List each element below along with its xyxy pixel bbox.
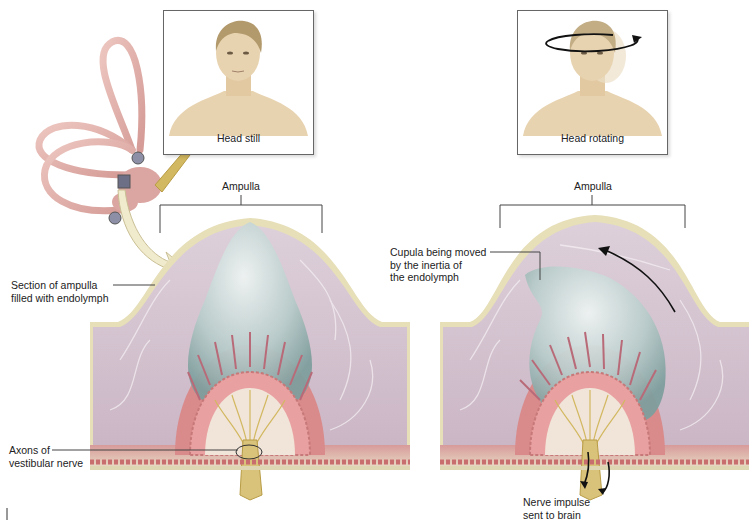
label-nerve-impulse: Nerve impulse sent to brain (523, 496, 590, 520)
left-ampulla-section (90, 218, 410, 500)
portrait-head-rotating: Head rotating (517, 10, 668, 155)
label-ampulla-left: Ampulla (222, 180, 260, 193)
label-section-of-ampulla: Section of ampulla filled with endolymph (11, 279, 108, 304)
caption-head-still: Head still (164, 132, 313, 144)
label-axons-vestibular-nerve: Axons of vestibular nerve (9, 444, 83, 469)
right-ampulla-section (440, 215, 749, 500)
portrait-head-still: Head still (163, 10, 314, 155)
caption-head-rotating: Head rotating (518, 132, 667, 144)
vestibular-nerve-branch (155, 150, 190, 192)
label-cupula-moved: Cupula being moved by the inertia of the… (390, 246, 486, 284)
label-ampulla-right: Ampulla (574, 180, 612, 193)
